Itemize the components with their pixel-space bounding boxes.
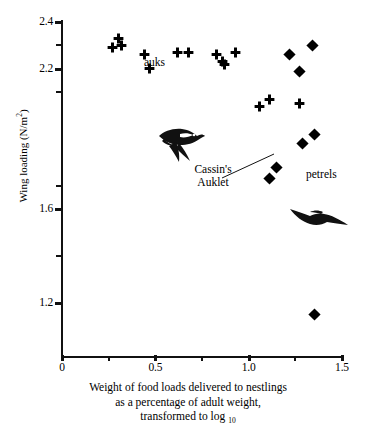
petrel-bird-illustration (288, 202, 350, 234)
x-axis-caption-line2: as a percentage of adult weight, (115, 396, 261, 408)
petrels-group-label: petrels (306, 168, 337, 180)
wing-loading-scatter-figure: 2.42.21.61.200.51.01.5 Wing loading (N/m… (0, 0, 366, 436)
x-axis-caption-log-base: 10 (228, 416, 236, 425)
x-axis-caption-line1: Weight of food loads delivered to nestli… (89, 381, 287, 393)
cassins-auklet-label-line2: Auklet (182, 176, 244, 189)
auks-group-label: auks (144, 56, 165, 68)
auklet-bird-illustration (156, 122, 208, 168)
x-axis-caption: Weight of food loads delivered to nestli… (38, 380, 338, 424)
x-axis-caption-line3: transformed to log 10 (140, 410, 235, 422)
